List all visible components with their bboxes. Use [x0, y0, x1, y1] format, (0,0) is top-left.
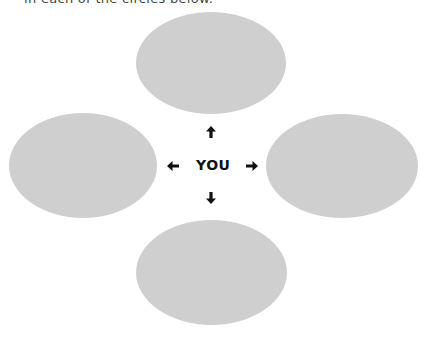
ellipse-left[interactable] [9, 113, 157, 218]
arrow-left-icon [166, 159, 180, 173]
ellipse-right[interactable] [266, 114, 418, 218]
instruction-text: in each of the circles below. [24, 0, 213, 6]
center-label: YOU [196, 157, 230, 173]
arrow-right-icon [245, 159, 259, 173]
arrow-down-icon [204, 191, 218, 205]
ellipse-top[interactable] [136, 12, 286, 114]
ellipse-bottom[interactable] [136, 220, 287, 325]
arrow-up-icon [204, 125, 218, 139]
